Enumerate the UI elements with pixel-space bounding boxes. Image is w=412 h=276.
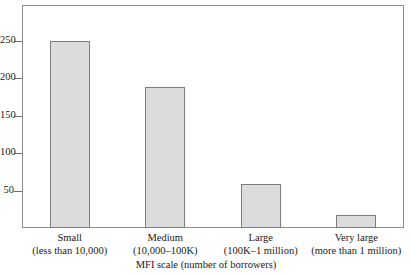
x-axis-category-name: Large — [213, 231, 309, 244]
x-axis-category-label: Large(100K–1 million) — [213, 231, 309, 257]
y-axis-tick-label: 150 — [0, 110, 14, 120]
bar — [241, 184, 281, 228]
bar-chart-figure: 50100150200250 Small(less than 10,000)Me… — [0, 0, 412, 276]
x-axis-category-label: Medium(10,000–100K) — [118, 231, 214, 257]
x-axis-title: MFI scale (number of borrowers) — [0, 259, 412, 270]
y-axis-tick-label: 200 — [0, 72, 14, 82]
y-axis-tick-label: 100 — [0, 147, 14, 157]
x-axis-category-label: Small(less than 10,000) — [22, 231, 118, 257]
x-axis-category-label: Very large(more than 1 million) — [309, 231, 405, 257]
x-axis-category-range: (100K–1 million) — [213, 244, 309, 257]
x-axis-category-range: (less than 10,000) — [22, 244, 118, 257]
x-axis-category-name: Medium — [118, 231, 214, 244]
bar — [145, 87, 185, 228]
x-axis-category-name: Very large — [309, 231, 405, 244]
y-axis-tick-label: 250 — [0, 35, 14, 45]
y-axis-tick-label: 50 — [0, 185, 14, 195]
y-axis-tick — [14, 191, 22, 192]
x-axis-category-range: (10,000–100K) — [118, 244, 214, 257]
x-axis-category-range: (more than 1 million) — [309, 244, 405, 257]
bar — [50, 41, 90, 228]
bar — [336, 215, 376, 228]
x-axis-category-name: Small — [22, 231, 118, 244]
